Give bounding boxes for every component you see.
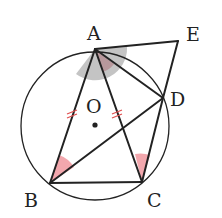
label-C: C — [147, 189, 162, 211]
label-D: D — [170, 88, 185, 110]
geometry-diagram: A E D O B C — [0, 0, 222, 218]
diagram-canvas: A E D O B C — [0, 0, 222, 218]
segment-BD — [50, 98, 163, 183]
angle-ABD-pink — [50, 155, 74, 183]
label-B: B — [24, 189, 38, 211]
center-point-O — [92, 122, 97, 127]
segment-AE — [95, 41, 178, 49]
segment-BC — [50, 182, 142, 183]
label-A: A — [86, 22, 101, 44]
label-O: O — [86, 95, 102, 117]
label-E: E — [186, 23, 200, 45]
